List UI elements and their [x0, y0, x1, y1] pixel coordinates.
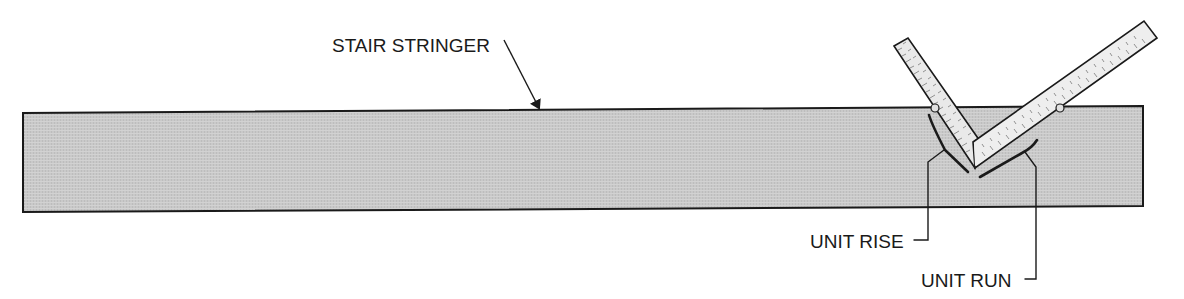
stringer-leader-arrow [504, 40, 539, 108]
unit-run-label: UNIT RUN [921, 270, 1011, 291]
stair-stringer-diagram: STAIR STRINGER UNIT RISE UNIT RUN [0, 0, 1184, 299]
stringer-label: STAIR STRINGER [332, 35, 490, 56]
pin-gauge-run-icon [1056, 104, 1064, 112]
unit-rise-label: UNIT RISE [810, 231, 904, 252]
pin-gauge-rise-icon [931, 104, 939, 112]
